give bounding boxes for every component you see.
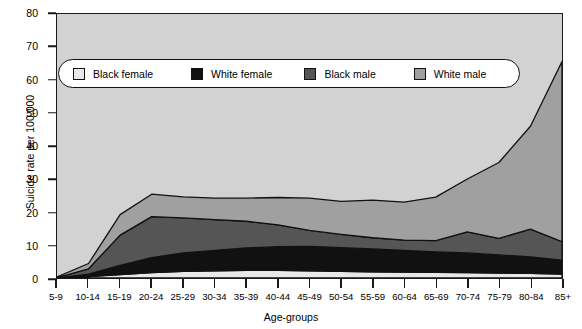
x-axis-tick-mark [562, 279, 564, 288]
x-axis-tick-label: 35-39 [234, 291, 259, 302]
x-axis-tick-mark [182, 279, 184, 288]
x-axis-tick-label: 45-49 [297, 291, 322, 302]
y-axis-tick-mark [48, 245, 56, 247]
y-axis-tick-label: 70 [26, 40, 38, 52]
x-axis-tick-mark [119, 279, 121, 288]
legend-item-black-female: Black female [73, 68, 153, 80]
x-axis-tick-label: 25-29 [170, 291, 195, 302]
x-axis-tick-label: 80-84 [519, 291, 544, 302]
legend-swatch-icon [191, 68, 203, 80]
x-axis-tick-mark [499, 279, 501, 288]
x-axis-tick-mark [436, 279, 438, 288]
legend-label: White female [211, 68, 272, 80]
x-axis-tick-mark [309, 279, 311, 288]
y-axis-title: Suicide rate per 100,000 [24, 52, 36, 252]
y-axis-tick-mark [48, 212, 56, 214]
x-axis-tick-label: 40-44 [266, 291, 291, 302]
x-axis-tick-mark [372, 279, 374, 288]
legend-item-white-male: White male [414, 68, 487, 80]
legend-item-black-male: Black male [304, 68, 375, 80]
x-axis-tick-mark [87, 279, 89, 288]
x-axis-title: Age-groups [0, 311, 582, 323]
legend-label: White male [434, 68, 487, 80]
x-axis-tick-mark [214, 279, 216, 288]
x-axis-tick-label: 50-54 [329, 291, 354, 302]
x-axis-tick-label: 20-24 [139, 291, 164, 302]
x-axis-tick-label: 65-69 [424, 291, 449, 302]
y-axis-tick-mark [48, 79, 56, 81]
y-axis-tick-mark [48, 179, 56, 181]
legend-swatch-icon [414, 68, 426, 80]
x-axis-tick-label: 10-14 [75, 291, 100, 302]
y-axis-tick-mark [48, 145, 56, 147]
x-axis-tick-mark [467, 279, 469, 288]
chart-legend: Black femaleWhite femaleBlack maleWhite … [58, 59, 520, 88]
legend-item-white-female: White female [191, 68, 272, 80]
x-axis-tick-label: 60-64 [392, 291, 417, 302]
stacked-area-series-group [57, 14, 562, 278]
x-axis-tick-mark [340, 279, 342, 288]
x-axis-tick-label: 85+ [555, 291, 571, 302]
x-axis-tick-label: 5-9 [49, 291, 63, 302]
x-axis-tick-mark [245, 279, 247, 288]
x-axis-tick-label: 75-79 [487, 291, 512, 302]
x-axis-tick-mark [404, 279, 406, 288]
x-axis-tick-label: 15-19 [107, 291, 132, 302]
legend-swatch-icon [304, 68, 316, 80]
legend-swatch-icon [73, 68, 85, 80]
x-axis-tick-mark [531, 279, 533, 288]
legend-label: Black female [93, 68, 153, 80]
y-axis-tick-label: 0 [32, 273, 38, 285]
x-axis-tick-mark [150, 279, 152, 288]
x-axis-tick-label: 30-34 [202, 291, 227, 302]
x-axis-tick-label: 55-59 [361, 291, 386, 302]
plot-area [56, 13, 563, 279]
x-axis-tick-mark [55, 279, 57, 288]
x-axis-tick-label: 70-74 [456, 291, 481, 302]
x-axis-tick-mark [277, 279, 279, 288]
legend-label: Black male [324, 68, 375, 80]
y-axis-tick-mark [48, 12, 56, 14]
y-axis-tick-label: 80 [26, 7, 38, 19]
chart-figure: 01020304050607080 Suicide rate per 100,0… [0, 0, 582, 329]
y-axis-tick-mark [48, 46, 56, 48]
y-axis-tick-mark [48, 112, 56, 114]
